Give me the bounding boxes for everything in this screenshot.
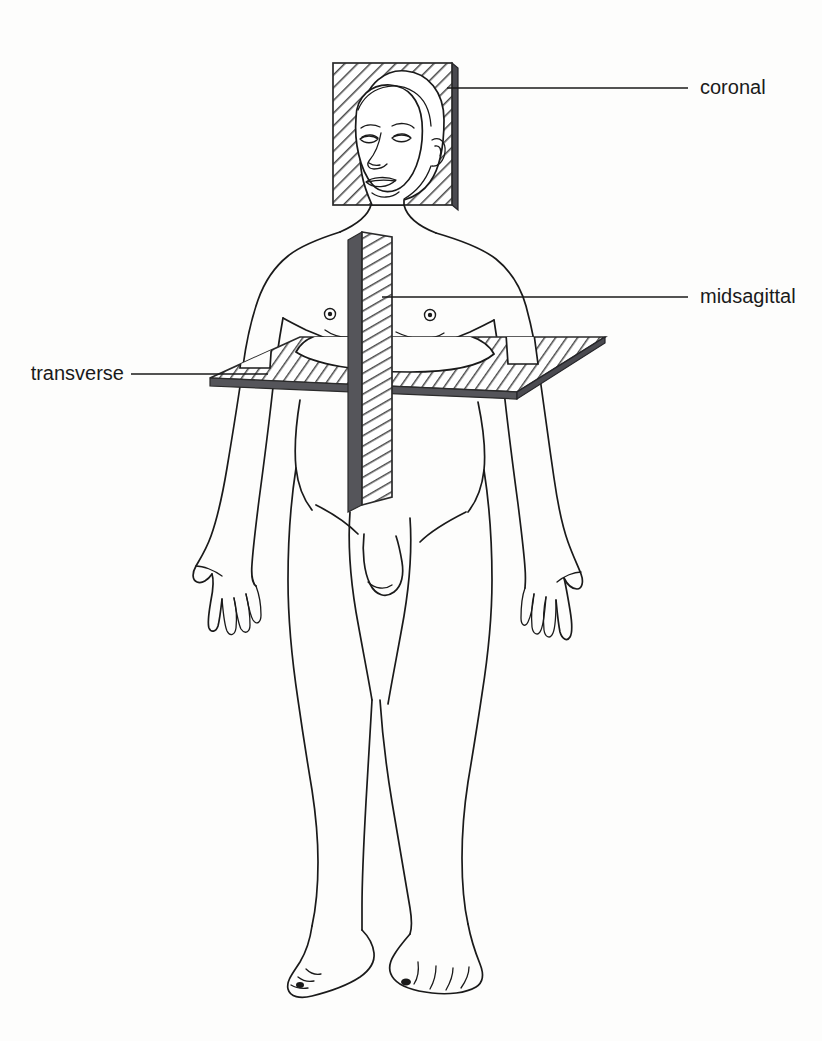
midsagittal-plane-face <box>362 232 392 505</box>
nipple-left <box>325 309 336 320</box>
coronal-plane-edge <box>452 63 458 210</box>
toenail-right <box>401 979 411 986</box>
midsagittal-plane <box>348 232 392 512</box>
face-outline <box>356 85 423 192</box>
midsagittal-plane-edge <box>348 232 362 512</box>
toenail-left <box>296 982 304 988</box>
midsagittal-label: midsagittal <box>700 285 796 307</box>
nipple-right <box>425 310 436 321</box>
coronal-label: coronal <box>700 76 766 98</box>
anatomical-planes-figure: coronal midsagittal transverse <box>0 0 822 1041</box>
arm-right-through-plane <box>506 334 538 364</box>
transverse-label: transverse <box>31 362 124 384</box>
diagram-page: coronal midsagittal transverse <box>0 0 822 1041</box>
